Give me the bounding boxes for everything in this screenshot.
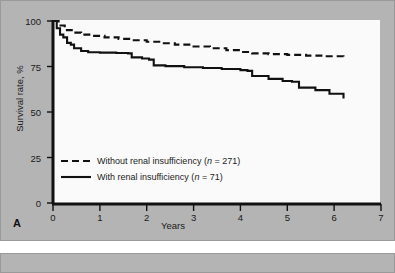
chart-svg	[1, 1, 395, 242]
figure-page: 100 75 50 25 0 0 1 2 3 4 5 6 7 Survival …	[0, 0, 395, 273]
x-tick-label-6: 6	[327, 212, 341, 223]
x-tick-label-7: 7	[374, 212, 388, 223]
legend-label-without-renal-insufficiency: Without renal insufficiency (n = 271)	[97, 156, 240, 166]
panel-b-partial	[0, 253, 395, 273]
legend-solid-line-sample	[61, 172, 91, 182]
y-tick-label-100: 100	[15, 16, 41, 27]
x-tick-label-2: 2	[140, 212, 154, 223]
legend-dashed-line-sample	[61, 156, 91, 166]
x-tick-label-5: 5	[280, 212, 294, 223]
y-tick-label-25: 25	[15, 153, 41, 164]
y-axis-label: Survival rate, %	[14, 44, 25, 154]
series-lines	[53, 21, 344, 99]
y-tick-label-0: 0	[15, 198, 41, 209]
x-tick-label-3: 3	[187, 212, 201, 223]
legend-item-with-renal-insufficiency: With renal insufficiency (n = 71)	[61, 169, 240, 185]
legend-item-without-renal-insufficiency: Without renal insufficiency (n = 271)	[61, 153, 240, 169]
chart-legend: Without renal insufficiency (n = 271) Wi…	[61, 153, 240, 185]
panel-a: 100 75 50 25 0 0 1 2 3 4 5 6 7 Survival …	[0, 0, 395, 241]
series-with-renal-insufficiency-line	[53, 21, 344, 99]
panel-letter-a: A	[13, 217, 21, 229]
x-tick-label-0: 0	[46, 212, 60, 223]
x-axis-label: Years	[161, 220, 185, 231]
legend-label-with-renal-insufficiency: With renal insufficiency (n = 71)	[97, 172, 223, 182]
x-tick-label-4: 4	[233, 212, 247, 223]
x-tick-label-1: 1	[93, 212, 107, 223]
